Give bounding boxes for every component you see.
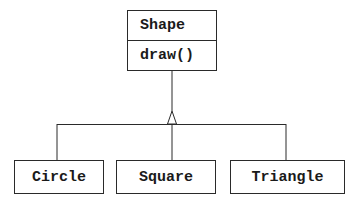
class-circle: Circle <box>14 160 104 194</box>
class-shape-methods: draw() <box>128 40 216 70</box>
class-name-label: Shape <box>140 17 185 34</box>
method-label: draw() <box>140 47 194 64</box>
class-triangle: Triangle <box>230 160 345 194</box>
generalization-arrow-icon <box>168 111 177 124</box>
class-shape: Shape draw() <box>127 10 217 71</box>
class-name-label: Circle <box>32 169 86 186</box>
class-square: Square <box>116 160 216 194</box>
uml-diagram: Shape draw() Circle Square Triangle <box>0 0 353 201</box>
class-shape-name: Shape <box>128 11 216 40</box>
class-name-label: Triangle <box>251 169 323 186</box>
class-name-label: Square <box>139 169 193 186</box>
